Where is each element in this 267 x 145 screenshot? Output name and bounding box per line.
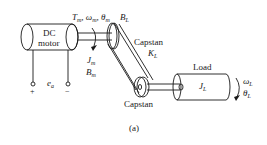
motor-torque-speed-angle-label: Tm, ωm, θm [72, 13, 110, 23]
motor-damping-label: Bm [86, 68, 96, 78]
load-inertia-label: JL [199, 82, 206, 92]
capstan-stiffness-label: KL [148, 49, 157, 59]
belt-damping-label: BL [120, 13, 129, 23]
motor-inertia-label: Jm [87, 56, 95, 66]
load-speed-label: ωL [243, 77, 253, 87]
capstan-bottom-label: Capstan [124, 100, 153, 109]
terminal-plus-label: + [30, 88, 35, 96]
armature-voltage-label: ea [47, 79, 54, 89]
load-label: Load [193, 63, 212, 72]
load-angle-label: θL [243, 89, 251, 99]
terminal-minus-label: − [65, 88, 70, 96]
capstan-top-label: Capstan [134, 38, 163, 47]
motor-label-line1: DC [43, 29, 56, 38]
motor-label-line2: motor [38, 39, 60, 48]
figure-caption: (a) [129, 124, 139, 133]
motor-end [21, 24, 33, 50]
